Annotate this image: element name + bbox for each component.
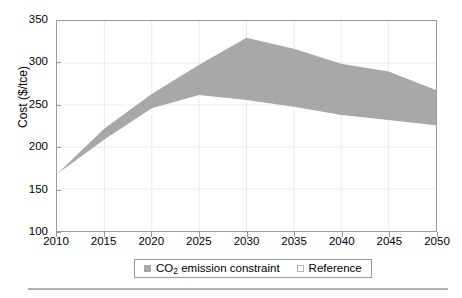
x-tick-mark (247, 232, 248, 237)
x-tick-label: 2035 (269, 236, 319, 248)
legend-item-co2-emission-constraint: CO2 emission constraint (144, 263, 280, 275)
x-tick-label: 2040 (317, 236, 367, 248)
y-tick-mark (56, 232, 61, 233)
x-tick-mark (389, 232, 390, 237)
y-tick-mark (56, 147, 61, 148)
x-tick-label: 2015 (79, 236, 129, 248)
footer-divider (28, 288, 448, 290)
x-tick-label: 2025 (174, 236, 224, 248)
x-tick-label: 2010 (31, 236, 81, 248)
chart-figure: Cost ($/tce) 350300250200150100 20102015… (0, 0, 462, 298)
chart-canvas (57, 21, 436, 231)
x-tick-mark (342, 232, 343, 237)
x-tick-label: 2020 (126, 236, 176, 248)
x-tick-label: 2050 (412, 236, 462, 248)
x-tick-mark (294, 232, 295, 237)
y-tick-mark (56, 190, 61, 191)
y-tick-mark (56, 62, 61, 63)
legend-swatch-filled-icon (144, 265, 151, 272)
y-tick-mark (56, 20, 61, 21)
plot-area (56, 20, 437, 232)
x-tick-mark (437, 232, 438, 237)
x-tick-mark (199, 232, 200, 237)
legend-swatch-hollow-icon (297, 265, 304, 272)
x-tick-label: 2045 (364, 236, 414, 248)
x-tick-mark (104, 232, 105, 237)
x-tick-label: 2030 (222, 236, 272, 248)
y-tick-mark (56, 105, 61, 106)
legend-label-reference: Reference (309, 263, 362, 275)
legend-item-reference: Reference (297, 263, 362, 275)
x-tick-mark (151, 232, 152, 237)
legend-label-co2-emission-constraint: CO2 emission constraint (156, 263, 280, 275)
chart-legend: CO2 emission constraint Reference (134, 259, 372, 278)
